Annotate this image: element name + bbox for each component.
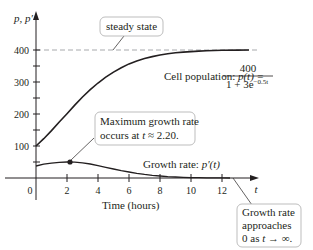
growth-chart: 100 200 300 400 0 2 4 6 8 10 12 p, p′ t … — [0, 0, 313, 250]
x-axis-arrow-icon — [250, 175, 259, 181]
svg-text:1 + 3e−0.5t: 1 + 3e−0.5t — [226, 78, 268, 90]
growth-rate-label: Growth rate: p′(t) — [143, 158, 220, 171]
y-tick-label: 100 — [14, 141, 29, 152]
x-tick-label: 2 — [65, 185, 70, 196]
y-tick-label: 400 — [14, 45, 29, 56]
max-growth-text-line1: Maximum growth rate — [100, 115, 199, 127]
steady-state-label: steady state — [106, 20, 157, 32]
y-tick-label: 300 — [14, 77, 29, 88]
max-growth-point — [67, 159, 72, 164]
x-tick-label: 0 — [28, 185, 33, 196]
y-axis-arrow-icon — [33, 11, 39, 20]
x-tick-label: 6 — [127, 185, 132, 196]
y-tick-label: 200 — [14, 109, 29, 120]
x-tick-label: 8 — [158, 185, 163, 196]
y-axis-label: p, p′ — [13, 12, 34, 24]
x-tick-label: 4 — [96, 185, 101, 196]
x-axis-title: Time (hours) — [102, 199, 160, 212]
x-tick-label: 10 — [186, 185, 196, 196]
approach-zero-line2: approaches — [242, 219, 291, 231]
x-tick-label: 12 — [217, 185, 227, 196]
cell-population-equation: Cell population: p(t) = 400 1 + 3e−0.5t — [164, 62, 273, 90]
max-growth-text-line2: occurs at t ≈ 2.20. — [100, 129, 179, 141]
max-growth-pointer — [71, 138, 94, 160]
steady-state-pointer — [113, 36, 124, 50]
approach-zero-line3: 0 as t → ∞. — [242, 232, 293, 244]
approach-zero-line1: Growth rate — [242, 206, 295, 218]
x-axis-symbol: t — [254, 183, 258, 195]
svg-text:400: 400 — [240, 62, 257, 74]
approach-zero-pointer — [233, 178, 252, 205]
